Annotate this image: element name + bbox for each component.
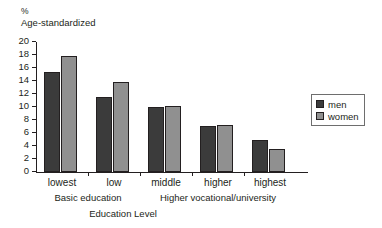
y-axis-tick-label: 0 <box>24 165 29 176</box>
x-axis-divider-tick <box>88 172 89 176</box>
bar-middle-men <box>148 107 164 172</box>
chart-legend: men women <box>311 94 365 126</box>
bar-group <box>244 42 296 172</box>
category-group-label: Basic education <box>36 192 140 203</box>
legend-label-women: women <box>328 111 359 122</box>
y-axis-label-unit: % <box>21 6 95 17</box>
x-axis-line <box>36 172 308 173</box>
x-axis-title-text: Education Level <box>89 208 157 219</box>
y-axis-tick-label: 12 <box>18 87 29 98</box>
y-axis-tick-label: 8 <box>24 113 29 124</box>
plot-area: 02468101214161820 <box>36 42 296 172</box>
x-axis-tick-label-lowest: lowest <box>36 177 88 189</box>
bar-lowest-men <box>44 72 60 172</box>
category-group-label: Higher vocational/university <box>140 192 296 203</box>
bar-highest-men <box>252 140 268 172</box>
legend-swatch-women-icon <box>316 112 324 120</box>
x-axis-tick-label-middle: middle <box>140 177 192 189</box>
y-axis-tick-label: 14 <box>18 74 29 85</box>
y-axis-tick-label: 6 <box>24 126 29 137</box>
y-axis-tick-label: 20 <box>18 35 29 46</box>
bar-middle-women <box>165 106 181 172</box>
x-axis-divider-tick <box>192 172 193 176</box>
bar-group <box>140 42 192 172</box>
x-axis-divider-tick <box>140 172 141 176</box>
x-axis-tick-label-highest: highest <box>244 177 296 189</box>
legend-label-men: men <box>328 99 346 110</box>
y-axis-tick-label: 2 <box>24 152 29 163</box>
y-axis-label: % Age-standardized <box>21 6 95 28</box>
y-axis-tick-label: 16 <box>18 61 29 72</box>
legend-item-men: men <box>316 98 359 110</box>
y-axis-tick-label: 18 <box>18 48 29 59</box>
x-axis-title: Education Level <box>0 208 382 219</box>
bar-low-men <box>96 97 112 172</box>
bar-higher-women <box>217 125 233 172</box>
bar-higher-men <box>200 126 216 172</box>
bar-lowest-women <box>61 56 77 172</box>
bar-highest-women <box>269 149 285 172</box>
bar-group <box>192 42 244 172</box>
y-axis-tick-label: 10 <box>18 100 29 111</box>
x-axis-tick-label-higher: higher <box>192 177 244 189</box>
legend-swatch-men-icon <box>316 100 324 108</box>
bar-group <box>36 42 88 172</box>
bar-group <box>88 42 140 172</box>
bar-chart-figure: % Age-standardized 02468101214161820 low… <box>0 0 382 228</box>
y-axis-label-text: Age-standardized <box>21 17 95 28</box>
bar-low-women <box>113 82 129 172</box>
x-axis-tick-label-low: low <box>88 177 140 189</box>
y-axis-tick-label: 4 <box>24 139 29 150</box>
x-axis-divider-tick <box>244 172 245 176</box>
legend-item-women: women <box>316 110 359 122</box>
